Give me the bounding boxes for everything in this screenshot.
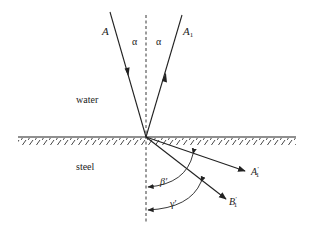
beta-prime-arc [148,154,193,187]
steel-hatching [18,138,296,145]
incident-ray-label: A [101,25,109,37]
water-label: water [76,94,99,105]
refracted-transverse-ray [146,137,226,199]
gamma-prime-label: γ′ [169,198,177,209]
wave-reflection-refraction-diagram: A A1 α α water steel A′1 B′1 β′ γ′ [0,0,313,233]
incidence-angle-label: α [132,36,138,47]
reflected-ray-label: A1 [182,25,194,39]
beta-prime-label: β′ [159,176,168,187]
reflected-ray [146,15,182,137]
refracted-transverse-label: B′1 [229,195,238,209]
incident-ray-arrow [125,67,130,76]
reflection-angle-label: α [156,36,162,47]
refracted-longitudinal-label: A′1 [250,165,260,179]
steel-label: steel [76,161,95,172]
